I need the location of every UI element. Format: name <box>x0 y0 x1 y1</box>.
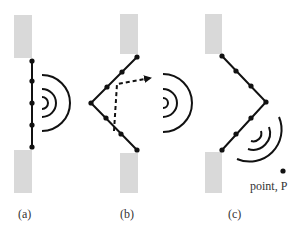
element-dots-b <box>88 54 139 152</box>
panel-c: point, P (c) <box>205 14 288 221</box>
top-block-a <box>14 15 32 58</box>
panel-label-a: (a) <box>18 207 31 221</box>
element-line-c <box>222 56 266 150</box>
element-line-b <box>91 57 137 150</box>
wave-arcs-c <box>237 117 282 162</box>
bottom-block-b <box>120 153 138 193</box>
bottom-block-a <box>14 150 32 193</box>
wave-arcs-a <box>42 75 70 131</box>
panel-label-b: (b) <box>120 207 134 221</box>
panel-a: (a) <box>14 15 70 221</box>
top-block-c <box>205 14 222 54</box>
wave-arcs-b <box>163 74 192 132</box>
dashed-path-arrow <box>114 78 150 131</box>
bottom-block-c <box>205 152 222 193</box>
point-p-marker <box>280 168 285 173</box>
top-block-b <box>120 14 138 54</box>
panel-label-c: (c) <box>228 207 241 221</box>
panel-b: (b) <box>88 14 192 221</box>
point-p-label: point, P <box>250 179 288 193</box>
diagram-canvas: (a) (b) <box>0 0 303 231</box>
